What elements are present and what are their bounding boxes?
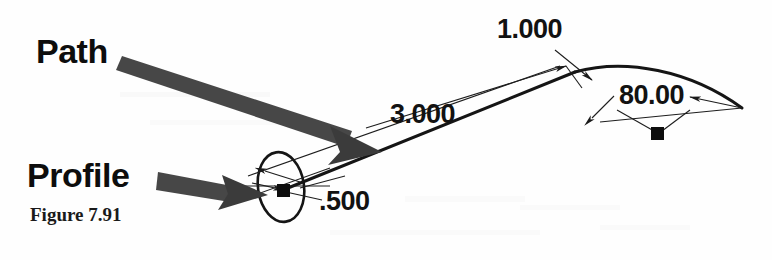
path-arrow-shaft — [116, 56, 352, 147]
angle-chord — [600, 108, 742, 122]
profile-dimension-lines — [243, 66, 560, 200]
figure-canvas: Path Profile 3.000 .500 1.000 80.00 Figu… — [0, 0, 772, 260]
dimension-label-arc-angle: 80.00 — [619, 82, 684, 109]
angle-grip-leader-left — [617, 110, 654, 131]
profile-callout-label: Profile — [27, 158, 129, 192]
profile-pointer-arrow — [156, 172, 268, 210]
dimension-label-profile-size: .500 — [319, 188, 370, 215]
dimension-label-sweep-length: 3.000 — [390, 101, 455, 128]
angle-grip-leader-right — [662, 110, 690, 131]
angle-left-leg — [592, 96, 614, 118]
profile-dim-arrow-up — [265, 171, 300, 182]
profile-arrow-shaft — [156, 172, 232, 202]
arc-grip-square[interactable] — [651, 127, 664, 140]
path-callout-label: Path — [36, 34, 108, 68]
path-pointer-arrow — [116, 56, 382, 165]
profile-grip-square[interactable] — [277, 184, 290, 197]
figure-caption: Figure 7.91 — [30, 205, 121, 224]
dimension-label-arc-height: 1.000 — [497, 16, 562, 43]
